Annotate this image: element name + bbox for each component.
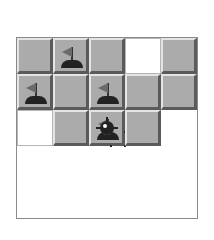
- cell-r1-c1-empty[interactable]: [125, 38, 161, 74]
- cell-r2-c4-flag[interactable]: [89, 74, 125, 110]
- cell-r4-c4-covered[interactable]: [125, 110, 161, 146]
- minesweeper-board: [16, 37, 198, 219]
- cell-r4-c1-covered[interactable]: [53, 110, 89, 146]
- cell-r0-c2-flag[interactable]: [53, 38, 89, 74]
- cell-r3-c1-covered[interactable]: [161, 74, 197, 110]
- cell-r4-c3-mine[interactable]: [100, 121, 114, 135]
- cell-r0-c0-covered[interactable]: [17, 38, 53, 74]
- cell-r1-c4-covered[interactable]: [161, 38, 197, 74]
- cell-r0-c3-covered[interactable]: [89, 38, 125, 74]
- cell-r2-c2-covered[interactable]: [53, 74, 89, 110]
- cell-r3-c0-covered[interactable]: [125, 74, 161, 110]
- cell-r2-c0-flag[interactable]: [17, 74, 53, 110]
- cell-r3-c3-empty[interactable]: [17, 110, 53, 146]
